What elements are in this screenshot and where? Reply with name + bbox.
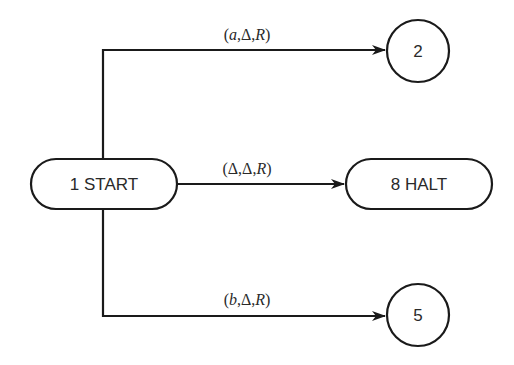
halt-node-label: 8 HALT [391, 175, 447, 194]
edge-start-to-state2: (a,Δ,R) [103, 26, 385, 158]
state2-node-label: 2 [413, 42, 422, 61]
edge-start-to-state5: (b,Δ,R) [103, 209, 385, 316]
start-node-label: 1 START [70, 175, 138, 194]
edge-start-to-halt: (Δ,Δ,R) [177, 160, 344, 184]
edge-label-to-state2: (a,Δ,R) [224, 26, 271, 44]
turing-machine-diagram: (a,Δ,R) (Δ,Δ,R) (b,Δ,R) 1 START 8 HALT 2… [0, 0, 514, 365]
edge-label-to-state5: (b,Δ,R) [224, 291, 271, 309]
node-state2: 2 [387, 20, 449, 82]
node-state5: 5 [387, 284, 449, 346]
edge-path-to-state2 [103, 50, 385, 158]
state5-node-label: 5 [413, 306, 422, 325]
node-halt: 8 HALT [346, 159, 492, 209]
node-start: 1 START [31, 159, 177, 209]
edge-label-to-halt: (Δ,Δ,R) [222, 160, 271, 178]
